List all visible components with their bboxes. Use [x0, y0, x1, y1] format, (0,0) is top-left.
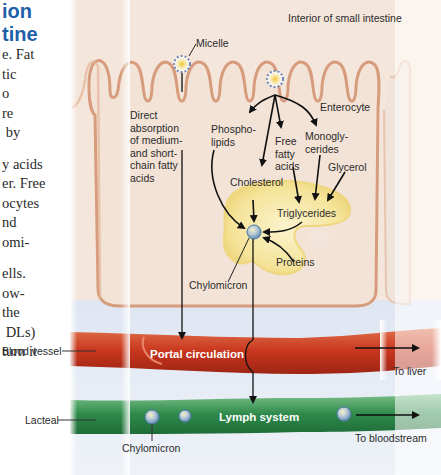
- digestion-diagram: [0, 0, 441, 475]
- label-triglycerides: Triglycerides: [277, 207, 336, 220]
- label-free-fatty-acids: Free fatty acids: [275, 135, 300, 173]
- label-cholesterol: Cholesterol: [230, 176, 283, 189]
- label-micelle: Micelle: [196, 37, 229, 50]
- chylomicron-lymph-icon: [179, 410, 191, 422]
- label-lacteal: Lacteal: [25, 414, 59, 427]
- label-blood-vessel: Blood vessel: [2, 345, 62, 358]
- label-glycerol: Glycerol: [328, 161, 367, 174]
- label-to-bloodstream: To bloodstream: [355, 432, 427, 445]
- label-monoglycerides: Monogly- cerides: [305, 130, 348, 155]
- label-direct-absorption: Direct absorption of medium- and short- …: [130, 109, 183, 185]
- label-lymph-system: Lymph system: [219, 411, 299, 423]
- label-enterocyte: Enterocyte: [320, 101, 370, 114]
- label-to-liver: To liver: [393, 365, 426, 378]
- label-phospholipids: Phospho- lipids: [211, 123, 256, 148]
- label-chylomicron-lymph: Chylomicron: [122, 442, 180, 455]
- micelle-in-cell-icon: [267, 71, 283, 87]
- label-interior-small-intestine: Interior of small intestine: [288, 12, 402, 25]
- chylomicron-lymph-icon: [145, 410, 159, 424]
- label-chylomicron-cell: Chylomicron: [189, 279, 247, 292]
- label-portal-circulation: Portal circulation: [150, 348, 244, 360]
- chylomicron-in-cell-icon: [247, 225, 261, 239]
- micelle-icon: [174, 56, 190, 72]
- label-proteins: Proteins: [276, 256, 315, 269]
- chylomicron-lymph-icon: [337, 407, 351, 421]
